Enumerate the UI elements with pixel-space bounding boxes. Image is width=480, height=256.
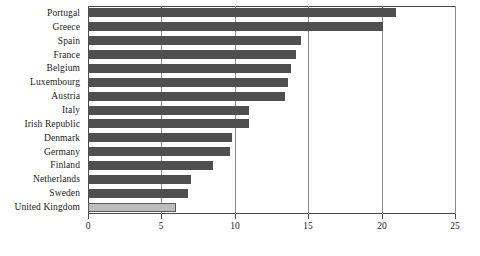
axis-tick-label: 5 [146, 221, 176, 232]
axis-tick-label: 10 [220, 221, 250, 232]
bar [88, 203, 176, 212]
category-label: Greece [0, 22, 80, 32]
plot-top-border [88, 6, 455, 7]
category-label: Italy [0, 105, 80, 115]
bar [88, 36, 301, 45]
bar [88, 22, 383, 31]
axis-tick-label: 20 [367, 221, 397, 232]
plot-area [88, 6, 455, 214]
gridline-25 [455, 6, 456, 214]
category-axis-labels: PortugalGreeceSpainFranceBelgiumLuxembou… [0, 6, 84, 214]
axis-tick [88, 214, 89, 219]
axis-tick-label: 15 [293, 221, 323, 232]
category-label: Belgium [0, 63, 80, 73]
gridline-20 [382, 6, 383, 214]
category-label: United Kingdom [0, 202, 80, 212]
axis-tick [308, 214, 309, 219]
bar [88, 119, 249, 128]
category-label: Germany [0, 147, 80, 157]
gridline-15 [308, 6, 309, 214]
bar [88, 175, 191, 184]
axis-tick [382, 214, 383, 219]
axis-tick-label: 25 [440, 221, 470, 232]
axis-tick [235, 214, 236, 219]
category-label: Luxembourg [0, 77, 80, 87]
bar [88, 78, 288, 87]
bar [88, 189, 188, 198]
category-label: Denmark [0, 133, 80, 143]
bar [88, 133, 232, 142]
category-label: Netherlands [0, 174, 80, 184]
category-label: Sweden [0, 188, 80, 198]
bar [88, 161, 213, 170]
axis-tick [161, 214, 162, 219]
category-label: Portugal [0, 8, 80, 18]
bar-chart: PortugalGreeceSpainFranceBelgiumLuxembou… [0, 0, 480, 256]
bar [88, 50, 296, 59]
category-label: Irish Republic [0, 119, 80, 129]
category-label: Austria [0, 91, 80, 101]
value-axis: 0510152025 [88, 214, 455, 244]
bar [88, 106, 249, 115]
axis-tick [455, 214, 456, 219]
bar [88, 92, 285, 101]
axis-tick-label: 0 [73, 221, 103, 232]
category-label: Finland [0, 160, 80, 170]
category-label: France [0, 50, 80, 60]
bar [88, 147, 230, 156]
bar [88, 64, 291, 73]
bar [88, 8, 396, 17]
category-label: Spain [0, 36, 80, 46]
